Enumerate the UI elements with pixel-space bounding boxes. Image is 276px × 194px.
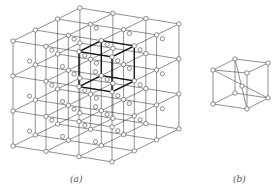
face-center-atom [27, 94, 31, 98]
corner-atom [11, 39, 15, 43]
lattice-edge [91, 13, 113, 24]
corner-atom [211, 102, 215, 106]
lattice-edge [35, 30, 68, 35]
lattice-edge [157, 59, 179, 70]
lattice-edge [46, 105, 68, 116]
lattice-edge [134, 70, 156, 81]
corner-atom [55, 87, 59, 91]
lattice-edge [46, 151, 79, 156]
corner-atom [177, 127, 181, 131]
face-center-atom [105, 112, 109, 116]
corner-atom [88, 57, 92, 61]
lattice-edge [13, 76, 46, 81]
unit-cell-edge [213, 104, 247, 109]
lattice-edge [101, 146, 134, 151]
face-center-atom [60, 99, 64, 103]
face-center-atom [116, 129, 120, 133]
face-center-atom [138, 48, 142, 52]
corner-atom [121, 132, 125, 136]
corner-atom [154, 103, 158, 107]
corner-atom [177, 57, 181, 61]
face-center-atom [60, 134, 64, 138]
corner-atom [111, 46, 115, 50]
corner-atom [132, 149, 136, 153]
lattice-edge [157, 94, 179, 105]
lattice-edge [124, 89, 146, 100]
unit-cell-edge [247, 63, 268, 73]
face-center-atom [160, 37, 164, 41]
unit-cell-edge [247, 98, 268, 109]
lattice-edge [35, 89, 57, 100]
face-center-atom [127, 101, 131, 105]
face-center-atom [93, 140, 97, 144]
corner-atom [77, 84, 81, 88]
lattice-edge [134, 140, 156, 151]
corner-atom [154, 33, 158, 37]
lattice-edge [79, 146, 101, 157]
lattice-edge [124, 124, 146, 135]
body-center-atom [240, 84, 244, 88]
corner-atom [55, 52, 59, 56]
lattice-edge [146, 54, 179, 59]
lattice-edge [134, 35, 156, 46]
unit-cell-edge [213, 93, 235, 104]
lattice-edge [35, 54, 57, 65]
lattice-edge [13, 30, 35, 41]
corner-atom [55, 17, 59, 21]
corner-atom [121, 62, 125, 66]
lattice-edge [112, 151, 134, 162]
corner-atom [99, 108, 103, 112]
lattice-edge [124, 19, 146, 30]
corner-atom [44, 79, 48, 83]
corner-atom [66, 68, 70, 72]
corner-atom [66, 103, 70, 107]
corner-atom [154, 138, 158, 142]
lattice-edge [13, 41, 46, 46]
corner-atom [99, 38, 103, 42]
corner-atom [99, 143, 103, 147]
face-center-atom [83, 123, 87, 127]
lattice-edge [46, 35, 68, 46]
corner-atom [144, 51, 148, 55]
lattice-edge [68, 24, 90, 35]
face-center-atom [116, 94, 120, 98]
face-center-atom [27, 59, 31, 63]
corner-atom [33, 133, 37, 137]
lattice-edge [68, 94, 90, 105]
corner-atom [110, 55, 114, 59]
lattice-edge [13, 100, 35, 111]
lattice-edge [35, 124, 57, 135]
corner-atom [11, 74, 15, 78]
corner-atom [233, 91, 237, 95]
lattice-edge [134, 105, 156, 116]
lattice-edge [35, 19, 57, 30]
corner-atom [132, 114, 136, 118]
face-center-atom [93, 105, 97, 109]
lattice-edge [157, 129, 179, 140]
corner-atom [11, 144, 15, 148]
corner-atom [78, 6, 82, 10]
corner-atom [110, 160, 114, 164]
corner-atom [132, 79, 136, 83]
face-center-atom [105, 42, 109, 46]
corner-atom [154, 68, 158, 72]
lattice-edge [13, 65, 35, 76]
corner-atom [132, 44, 136, 48]
corner-atom [78, 76, 82, 80]
face-center-atom [94, 61, 98, 65]
corner-atom [177, 22, 181, 26]
corner-atom [110, 125, 114, 129]
face-center-atom [27, 129, 31, 133]
corner-atom [144, 86, 148, 90]
face-center-atom [94, 96, 98, 100]
corner-atom [55, 122, 59, 126]
corner-atom [111, 81, 115, 85]
face-center-atom [160, 72, 164, 76]
unit-cell-edge [235, 59, 268, 63]
lattice-edge [46, 70, 68, 81]
lattice-edge [124, 135, 157, 140]
face-center-atom [50, 48, 54, 52]
face-center-atom [116, 59, 120, 63]
face-center-atom [60, 64, 64, 68]
face-center-atom [83, 53, 87, 57]
